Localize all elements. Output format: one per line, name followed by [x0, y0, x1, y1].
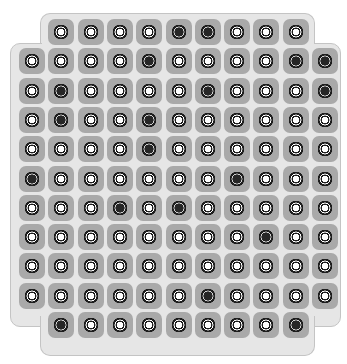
board-cell[interactable]: [166, 107, 192, 133]
board-cell[interactable]: [107, 283, 133, 309]
board-cell[interactable]: [195, 78, 221, 104]
board-cell[interactable]: [19, 283, 45, 309]
board-cell[interactable]: [195, 224, 221, 250]
board-cell[interactable]: [195, 107, 221, 133]
board-cell[interactable]: [283, 48, 309, 74]
board-cell[interactable]: [48, 253, 74, 279]
board-cell[interactable]: [78, 136, 104, 162]
board-cell[interactable]: [253, 48, 279, 74]
board-cell[interactable]: [312, 224, 338, 250]
board-cell[interactable]: [166, 136, 192, 162]
board-cell[interactable]: [107, 78, 133, 104]
board-cell[interactable]: [107, 224, 133, 250]
board-cell[interactable]: [224, 283, 250, 309]
board-cell[interactable]: [195, 48, 221, 74]
board-cell[interactable]: [253, 136, 279, 162]
board-cell[interactable]: [195, 166, 221, 192]
board-cell[interactable]: [224, 166, 250, 192]
board-cell[interactable]: [283, 224, 309, 250]
board-cell[interactable]: [253, 78, 279, 104]
board-cell[interactable]: [78, 195, 104, 221]
board-cell[interactable]: [253, 283, 279, 309]
board-cell[interactable]: [312, 166, 338, 192]
board-cell[interactable]: [107, 312, 133, 338]
board-cell[interactable]: [166, 19, 192, 45]
board-cell[interactable]: [166, 283, 192, 309]
board-cell[interactable]: [312, 78, 338, 104]
board-cell[interactable]: [283, 312, 309, 338]
board-cell[interactable]: [136, 78, 162, 104]
board-cell[interactable]: [166, 166, 192, 192]
board-cell[interactable]: [48, 224, 74, 250]
board-cell[interactable]: [19, 78, 45, 104]
board-cell[interactable]: [78, 224, 104, 250]
board-cell[interactable]: [19, 166, 45, 192]
board-cell[interactable]: [166, 224, 192, 250]
board-cell[interactable]: [48, 48, 74, 74]
board-cell[interactable]: [136, 19, 162, 45]
board-cell[interactable]: [283, 195, 309, 221]
board-cell[interactable]: [166, 48, 192, 74]
board-cell[interactable]: [48, 78, 74, 104]
board-cell[interactable]: [78, 283, 104, 309]
board-cell[interactable]: [107, 253, 133, 279]
board-cell[interactable]: [253, 19, 279, 45]
board-cell[interactable]: [312, 283, 338, 309]
board-cell[interactable]: [224, 195, 250, 221]
board-cell[interactable]: [136, 253, 162, 279]
board-cell[interactable]: [166, 253, 192, 279]
board-cell[interactable]: [312, 136, 338, 162]
board-cell[interactable]: [78, 19, 104, 45]
board-cell[interactable]: [136, 312, 162, 338]
board-cell[interactable]: [48, 195, 74, 221]
board-cell[interactable]: [136, 166, 162, 192]
board-cell[interactable]: [312, 253, 338, 279]
board-cell[interactable]: [19, 48, 45, 74]
board-cell[interactable]: [195, 283, 221, 309]
board-cell[interactable]: [78, 48, 104, 74]
board-cell[interactable]: [78, 78, 104, 104]
board-cell[interactable]: [136, 195, 162, 221]
board-cell[interactable]: [224, 312, 250, 338]
board-cell[interactable]: [48, 107, 74, 133]
board-cell[interactable]: [166, 195, 192, 221]
board-cell[interactable]: [48, 166, 74, 192]
board-cell[interactable]: [48, 283, 74, 309]
board-cell[interactable]: [312, 107, 338, 133]
board-cell[interactable]: [78, 166, 104, 192]
board-cell[interactable]: [107, 136, 133, 162]
board-cell[interactable]: [283, 253, 309, 279]
board-cell[interactable]: [136, 107, 162, 133]
board-cell[interactable]: [166, 312, 192, 338]
board-cell[interactable]: [253, 312, 279, 338]
board-cell[interactable]: [224, 136, 250, 162]
board-cell[interactable]: [224, 253, 250, 279]
board-cell[interactable]: [136, 283, 162, 309]
board-cell[interactable]: [107, 19, 133, 45]
board-cell[interactable]: [283, 19, 309, 45]
board-cell[interactable]: [166, 78, 192, 104]
board-cell[interactable]: [19, 107, 45, 133]
board-cell[interactable]: [253, 224, 279, 250]
board-cell[interactable]: [253, 253, 279, 279]
board-cell[interactable]: [78, 253, 104, 279]
board-cell[interactable]: [48, 19, 74, 45]
board-cell[interactable]: [48, 136, 74, 162]
board-cell[interactable]: [195, 253, 221, 279]
board-cell[interactable]: [224, 78, 250, 104]
board-cell[interactable]: [224, 48, 250, 74]
board-cell[interactable]: [48, 312, 74, 338]
board-cell[interactable]: [107, 48, 133, 74]
board-cell[interactable]: [78, 312, 104, 338]
board-cell[interactable]: [253, 195, 279, 221]
board-cell[interactable]: [195, 136, 221, 162]
board-cell[interactable]: [312, 48, 338, 74]
board-cell[interactable]: [312, 195, 338, 221]
board-cell[interactable]: [224, 19, 250, 45]
board-cell[interactable]: [136, 136, 162, 162]
board-cell[interactable]: [253, 107, 279, 133]
board-cell[interactable]: [107, 195, 133, 221]
board-cell[interactable]: [195, 312, 221, 338]
board-cell[interactable]: [195, 195, 221, 221]
board-cell[interactable]: [283, 166, 309, 192]
